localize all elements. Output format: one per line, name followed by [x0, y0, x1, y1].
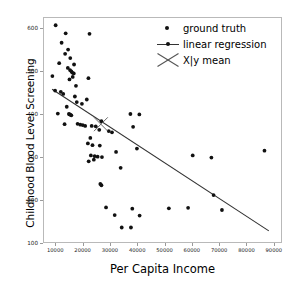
data-point	[87, 159, 91, 163]
data-point	[68, 56, 72, 60]
data-point	[66, 48, 70, 52]
regression-line	[52, 89, 269, 231]
x-tick-mark	[246, 243, 247, 246]
data-point	[88, 136, 92, 140]
data-point	[68, 78, 72, 82]
data-point	[74, 84, 78, 88]
y-tick-label: 500	[24, 68, 38, 74]
data-point	[80, 102, 84, 106]
x-tick-label: 70000	[211, 247, 228, 253]
data-point	[135, 147, 139, 151]
x-tick-mark	[219, 243, 220, 246]
x-cross-marker-icon	[155, 52, 181, 68]
x-tick-mark	[165, 243, 166, 246]
data-point	[51, 74, 55, 78]
y-tick-label: 100	[24, 240, 38, 246]
data-point	[220, 208, 224, 212]
data-point	[130, 207, 134, 211]
y-tick-label: 200	[24, 197, 38, 203]
data-point	[57, 61, 61, 65]
data-point	[263, 149, 267, 153]
x-tick-label: 90000	[266, 247, 283, 253]
x-tick-mark	[110, 243, 111, 246]
data-point	[89, 154, 93, 158]
x-tick-label: 10000	[47, 247, 64, 253]
chart-legend: ground truth linear regression X|y mean	[155, 20, 279, 68]
data-point	[100, 183, 104, 187]
data-point	[97, 128, 101, 132]
data-point	[72, 72, 76, 76]
data-point	[129, 226, 133, 230]
data-point	[131, 125, 135, 129]
data-point	[92, 158, 96, 162]
linear-regression-marker-icon	[155, 36, 181, 52]
data-point	[73, 95, 77, 99]
data-point	[96, 155, 100, 159]
x-tick-label: 20000	[74, 247, 91, 253]
data-point	[104, 206, 108, 210]
legend-item-xy-mean: X|y mean	[155, 52, 279, 68]
data-point	[212, 193, 216, 197]
x-tick-mark	[192, 243, 193, 246]
data-point	[54, 23, 58, 27]
data-point	[86, 142, 90, 146]
y-tick-label: 300	[24, 154, 38, 160]
x-tick-label: 60000	[184, 247, 201, 253]
data-point	[64, 31, 68, 35]
data-point	[120, 226, 124, 230]
legend-item-linear-regression: linear regression	[155, 36, 279, 52]
data-point	[137, 113, 141, 117]
data-point	[53, 89, 57, 93]
data-point	[186, 206, 190, 210]
x-tick-mark	[137, 243, 138, 246]
legend-label-ground-truth: ground truth	[181, 23, 246, 34]
legend-label-linear-regression: linear regression	[181, 39, 267, 50]
data-point	[90, 124, 94, 128]
data-point	[113, 213, 117, 217]
data-point	[88, 32, 92, 36]
data-point	[65, 105, 69, 109]
data-point	[138, 214, 142, 218]
data-point	[72, 63, 76, 67]
data-point	[98, 144, 102, 148]
y-tick-label: 600	[24, 25, 38, 31]
x-axis-label: Per Capita Income	[43, 262, 282, 276]
data-point	[61, 92, 65, 96]
legend-item-ground-truth: ground truth	[155, 20, 279, 36]
y-tick-label: 400	[24, 111, 38, 117]
x-tick-label: 50000	[156, 247, 173, 253]
data-point	[83, 124, 87, 128]
data-point	[71, 75, 75, 79]
data-point	[129, 112, 133, 116]
ground-truth-marker-icon	[155, 20, 181, 36]
data-point	[63, 52, 67, 56]
data-point	[63, 122, 67, 126]
data-point	[56, 112, 60, 116]
data-point	[100, 155, 104, 159]
x-tick-mark	[83, 243, 84, 246]
data-point	[75, 100, 79, 104]
data-point	[60, 41, 64, 45]
data-point	[167, 206, 171, 210]
y-tick-mark	[40, 243, 43, 244]
data-point	[69, 113, 73, 117]
data-point	[114, 150, 118, 154]
data-point	[119, 166, 123, 170]
x-tick-mark	[274, 243, 275, 246]
x-tick-label: 40000	[129, 247, 146, 253]
data-point	[210, 156, 214, 160]
x-tick-label: 30000	[102, 247, 119, 253]
legend-label-xy-mean: X|y mean	[181, 55, 231, 66]
data-point	[85, 98, 89, 102]
data-point	[110, 130, 114, 134]
x-tick-mark	[55, 243, 56, 246]
x-tick-label: 80000	[238, 247, 255, 253]
scatter-plot-figure: Childhood Blood Level Screening Per Capi…	[0, 0, 302, 286]
data-point	[191, 154, 195, 158]
data-point	[91, 143, 95, 147]
data-point	[87, 76, 91, 80]
